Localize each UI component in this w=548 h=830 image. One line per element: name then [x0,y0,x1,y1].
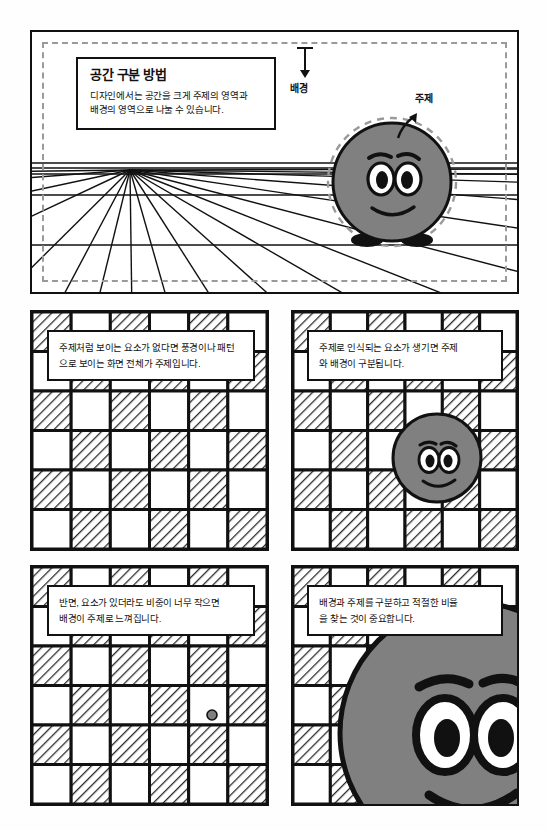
arrow-down-icon [290,46,320,80]
panel3-line-2: 와 배경이 구분됩니다. [319,356,491,372]
panel4-line-2: 배경이 주제로 느껴집니다. [59,611,243,627]
caption-box-panel5: 배경과 주제를 구분하고 적절한 비율 을 찾는 것이 중요합니다. [307,585,503,636]
blob-character-panel3 [391,412,483,504]
caption-line-1: 디자인에서는 공간을 크게 주제의 영역과 [90,89,264,104]
label-subject: 주제 [415,90,432,105]
panel3-line-1: 주제로 인식되는 요소가 생기면 주제 [319,340,491,356]
panel-subject-too-small: 반면, 요소가 있더라도 비중이 너무 작으면 배경이 주제로 느껴집니다. [30,565,269,806]
panel4-line-1: 반면, 요소가 있더라도 비중이 너무 작으면 [59,595,243,611]
panel-subject-appears: 주제로 인식되는 요소가 생기면 주제 와 배경이 구분됩니다. [291,310,519,551]
panel2-line-2: 으로 보이는 화면 전체가 주제입니다. [59,356,243,372]
panel-pattern-only: 주제처럼 보이는 요소가 없다면 풍경이나 패턴 으로 보이는 화면 전체가 주… [30,310,269,551]
panel2-line-1: 주제처럼 보이는 요소가 없다면 풍경이나 패턴 [59,340,243,356]
caption-box: 공간 구분 방법 디자인에서는 공간을 크게 주제의 영역과 배경의 영역으로 … [76,57,276,130]
caption-line-2: 배경의 영역으로 나눌 수 있습니다. [90,103,264,118]
comic-page: 공간 구분 방법 디자인에서는 공간을 크게 주제의 영역과 배경의 영역으로 … [0,0,548,830]
panel-perspective-scene: 공간 구분 방법 디자인에서는 공간을 크게 주제의 영역과 배경의 영역으로 … [30,30,519,294]
caption-title: 공간 구분 방법 [90,67,264,83]
label-background: 배경 [290,80,307,95]
tiny-subject-dot [206,709,218,721]
panel5-line-2: 을 찾는 것이 중요합니다. [319,611,491,627]
caption-box-panel4: 반면, 요소가 있더라도 비중이 너무 작으면 배경이 주제로 느껴집니다. [47,585,255,636]
panel5-line-1: 배경과 주제를 구분하고 적절한 비율 [319,595,491,611]
caption-box-panel2: 주제처럼 보이는 요소가 없다면 풍경이나 패턴 으로 보이는 화면 전체가 주… [47,330,255,381]
caption-box-panel3: 주제로 인식되는 요소가 생기면 주제 와 배경이 구분됩니다. [307,330,503,381]
panel-balanced-ratio: 배경과 주제를 구분하고 적절한 비율 을 찾는 것이 중요합니다. [291,565,519,806]
